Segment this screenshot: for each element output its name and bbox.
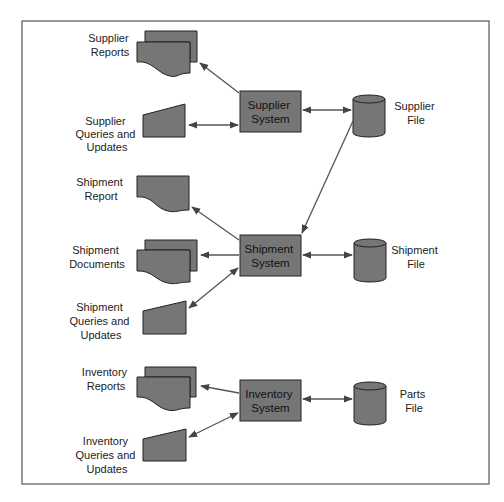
- shipment-report-symbol: [137, 176, 189, 212]
- system-flowchart: Supplier Reports Supplier Queries and Up…: [0, 0, 504, 502]
- arrow-supplier-to-reports: [200, 63, 239, 93]
- inventory-queries-symbol: [143, 429, 186, 461]
- arrow-supplierfile-to-shipment: [302, 121, 353, 233]
- shipment-documents-symbol: [137, 240, 197, 284]
- arrow-inventory-queries: [189, 413, 238, 437]
- shipment-file-cylinder[interactable]: [354, 239, 386, 282]
- arrow-inventory-to-reports: [201, 386, 239, 393]
- supplier-reports-symbol: [137, 31, 197, 76]
- parts-file-label: Parts File: [400, 388, 429, 414]
- parts-file-cylinder[interactable]: [354, 382, 386, 425]
- inventory-system-box[interactable]: Inventory System: [240, 380, 301, 421]
- arrow-shipment-queries: [189, 268, 238, 308]
- shipment-system-box[interactable]: Shipment System: [240, 235, 301, 276]
- arrow-shipment-to-report: [192, 207, 239, 240]
- inventory-reports-symbol: [137, 367, 196, 411]
- supplier-system-box[interactable]: Supplier System: [240, 91, 301, 132]
- supplier-queries-label: Supplier Queries and Updates: [76, 115, 139, 153]
- shipment-queries-label: Shipment Queries and Updates: [70, 301, 133, 341]
- supplier-queries-symbol: [143, 104, 185, 137]
- inventory-queries-label: Inventory Queries and Updates: [76, 435, 139, 475]
- shipment-documents-label: Shipment Documents: [69, 244, 125, 270]
- supplier-reports-label: Supplier Reports: [88, 32, 131, 58]
- supplier-file-cylinder[interactable]: [353, 95, 385, 137]
- inventory-reports-label: Inventory Reports: [82, 366, 130, 392]
- shipment-report-label: Shipment Report: [76, 176, 126, 202]
- shipment-file-label: Shipment File: [391, 244, 441, 270]
- shipment-queries-symbol: [143, 301, 186, 334]
- supplier-file-label: Supplier File: [394, 100, 437, 126]
